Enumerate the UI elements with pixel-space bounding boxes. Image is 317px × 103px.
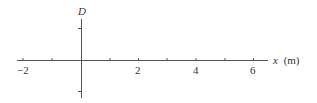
x-tick-label: 4 [193, 64, 199, 76]
x-tick-label: −2 [17, 64, 29, 76]
x-tick-label: 6 [250, 64, 256, 76]
x-axis-variable: x [272, 54, 278, 66]
x-axis-unit: (m) [284, 54, 300, 67]
x-tick-label: 2 [135, 64, 141, 76]
displacement-axes-plot: D −2 2 4 6 x (m) [0, 0, 317, 103]
x-axis-label: x (m) [272, 54, 300, 67]
y-axis-label: D [77, 5, 86, 17]
